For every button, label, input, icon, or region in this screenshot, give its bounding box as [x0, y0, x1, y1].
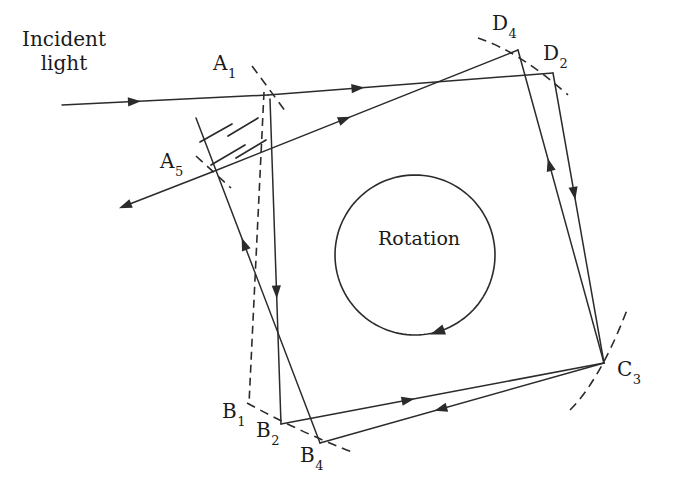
- left-edge-ray-A1-B2: [270, 99, 281, 424]
- rotation-arrowhead: [430, 325, 446, 335]
- bottom-edge-ray-B2-C3-arrowhead: [401, 397, 415, 406]
- vertex-letter-D4: D: [492, 11, 508, 35]
- exit-ray-A5: [122, 172, 212, 207]
- vertex-letter-B2: B: [256, 418, 271, 442]
- diagonal-ray-D4-A5: [212, 50, 518, 172]
- rotation-circle-arc: [335, 175, 495, 335]
- bottom-edge-ray-C3-B4: [320, 363, 604, 443]
- light-ray-paths: [62, 50, 604, 443]
- vertex-label-B4: B4: [300, 444, 323, 470]
- ray-direction-arrowheads: [119, 84, 578, 412]
- arc-at-A1: [252, 66, 286, 112]
- vertex-subscript-A5: 5: [175, 164, 183, 179]
- vertex-label-B2: B2: [256, 419, 279, 445]
- vertex-subscript-B4: 4: [315, 458, 323, 473]
- incident-ray: [62, 95, 268, 105]
- vertex-subscript-D4: 4: [509, 26, 517, 41]
- rotation-direction-arc: [335, 175, 495, 335]
- incident-ray-arrowhead: [128, 97, 141, 106]
- vertex-letter-A5: A: [160, 149, 174, 173]
- vertex-label-C3: C3: [617, 358, 641, 384]
- hatch-line-2: [228, 118, 258, 136]
- vertex-letter-D2: D: [543, 41, 559, 65]
- incident-light-label: Incident light: [22, 28, 106, 75]
- vertex-label-A5: A5: [160, 150, 183, 176]
- right-edge-ray-C3-D4: [518, 50, 604, 363]
- incident-light-line1: Incident: [22, 27, 106, 51]
- top-edge-ray-A1-D2-arrowhead: [351, 84, 364, 93]
- vertex-subscript-B1: 1: [237, 414, 245, 429]
- mirror-surface-hatching: [200, 118, 266, 165]
- figure-canvas: Incident light Rotation A1A5B1B2B4C3D2D4: [0, 0, 673, 499]
- incident-light-line2: light: [41, 51, 88, 75]
- vertex-subscript-A1: 1: [228, 66, 236, 81]
- top-edge-ray-A1-D2: [268, 73, 553, 95]
- vertex-label-D2: D2: [543, 42, 567, 68]
- right-edge-ray-C3-D4-arrowhead: [547, 158, 556, 172]
- bottom-edge-ray-B2-C3: [281, 363, 604, 424]
- bottom-edge-ray-C3-B4-arrowhead: [434, 403, 448, 412]
- vertex-letter-B1: B: [222, 399, 237, 423]
- vertex-label-D4: D4: [492, 12, 516, 38]
- left-edge-ray-B4-A5up: [196, 118, 320, 443]
- vertex-subscript-C3: 3: [633, 372, 641, 387]
- right-edge-ray-D2-C3-arrowhead: [569, 186, 578, 200]
- left-edge-ray-A1-B2-arrowhead: [272, 285, 281, 298]
- dashed-edge-A1-B1: [249, 92, 264, 404]
- diagonal-ray-D4-A5-arrowhead: [337, 117, 351, 126]
- rotation-label: Rotation: [378, 227, 460, 249]
- vertex-letter-A1: A: [213, 51, 227, 75]
- vertex-subscript-D2: 2: [560, 56, 568, 71]
- vertex-letter-B4: B: [300, 443, 315, 467]
- exit-ray-A5-arrowhead: [119, 199, 133, 208]
- vertex-label-B1: B1: [222, 400, 245, 426]
- vertex-letter-C3: C: [617, 357, 632, 381]
- right-edge-ray-D2-C3: [553, 73, 604, 363]
- vertex-subscript-B2: 2: [271, 433, 279, 448]
- dashed-reference-lines: [249, 92, 264, 404]
- left-edge-ray-B4-A5up-arrowhead: [242, 238, 251, 252]
- vertex-label-A1: A1: [213, 52, 236, 78]
